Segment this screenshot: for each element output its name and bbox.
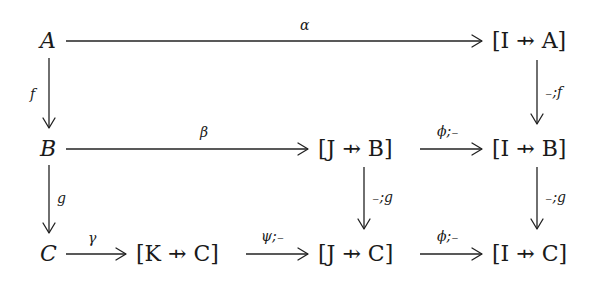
node-I-to-B: [I ⇸ B]: [492, 136, 566, 161]
label-psi: ψ;₋: [261, 228, 284, 244]
arrow-alpha: [66, 35, 482, 47]
label-phi-bottom: ϕ;₋: [437, 228, 459, 244]
node-B: B: [39, 136, 56, 161]
label-beta: β: [199, 124, 208, 140]
node-J-to-B: [J ⇸ B]: [318, 136, 393, 161]
arrow-psi: [246, 248, 308, 260]
node-C: C: [40, 241, 57, 266]
node-A: A: [38, 28, 56, 53]
arrow-f: [43, 58, 55, 128]
node-J-to-C: [J ⇸ C]: [318, 241, 393, 266]
commutative-diagram: A [I ⇸ A] B [J ⇸ B] [I ⇸ B] C [K ⇸ C] [J…: [0, 0, 615, 283]
arrow-pre-g-right: [531, 167, 543, 229]
label-g: g: [57, 190, 66, 206]
arrow-phi-bottom: [420, 248, 482, 260]
label-alpha: α: [300, 17, 310, 33]
node-K-to-C: [K ⇸ C]: [136, 241, 219, 266]
label-pre-f: ₋;f: [545, 84, 565, 100]
arrow-g: [43, 165, 55, 233]
arrow-pre-g-middle: [358, 167, 370, 229]
node-I-to-C: [I ⇸ C]: [492, 241, 567, 266]
arrow-pre-f: [531, 60, 543, 124]
label-gamma: γ: [88, 230, 97, 246]
label-f: f: [29, 86, 38, 102]
label-pre-g-right: ₋;g: [545, 189, 566, 205]
label-phi-top: ϕ;₋: [437, 123, 459, 139]
arrow-phi-top: [420, 143, 482, 155]
label-pre-g-middle: ₋;g: [372, 189, 393, 205]
arrow-gamma: [66, 248, 126, 260]
arrow-beta: [66, 143, 308, 155]
node-I-to-A: [I ⇸ A]: [492, 28, 566, 53]
